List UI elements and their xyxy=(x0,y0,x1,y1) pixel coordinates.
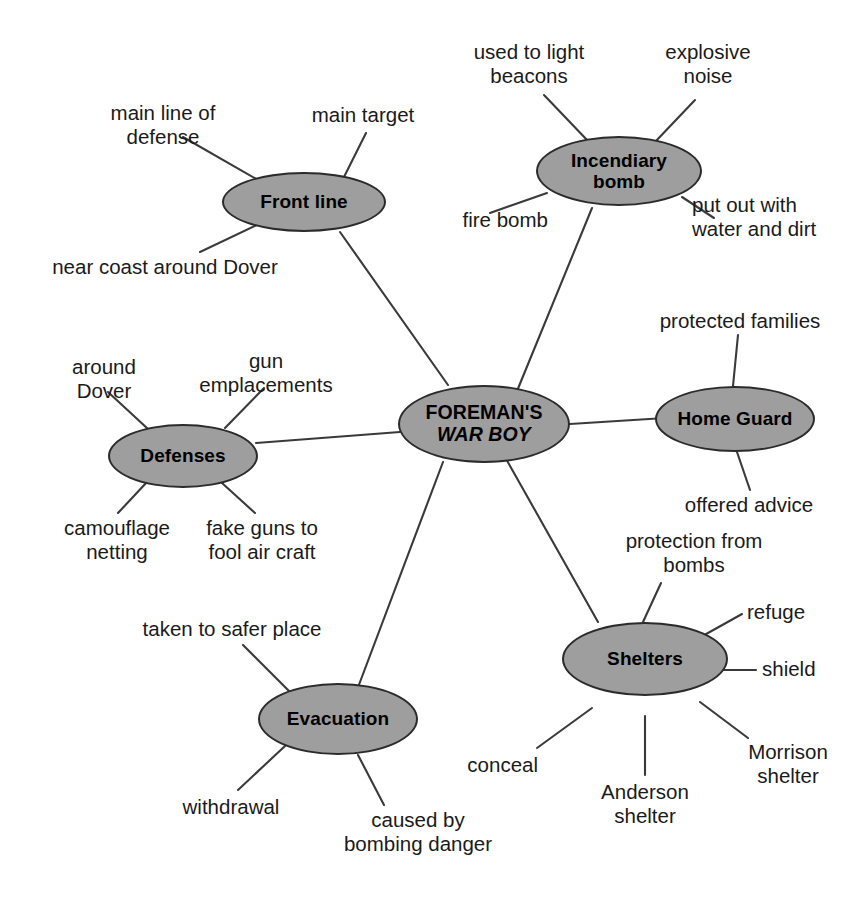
leaf-defenses-gun-emplacements: gun emplacements xyxy=(199,349,332,397)
leaf-incendiary-fire-bomb: fire bomb xyxy=(463,208,548,232)
leaf-shelters-anderson-shelter: Anderson shelter xyxy=(601,780,689,828)
node-evacuation[interactable]: Evacuation xyxy=(258,683,418,755)
edge-home-guard-leaf-1 xyxy=(733,335,738,386)
edge-center-evacuation xyxy=(357,462,443,690)
edge-center-shelters xyxy=(505,457,598,622)
edge-defenses-leaf-4 xyxy=(222,483,255,513)
node-home-guard-label: Home Guard xyxy=(671,408,798,429)
node-incendiary-bomb-label: Incendiary bomb xyxy=(565,150,673,193)
edge-evacuation-leaf-3 xyxy=(358,755,384,805)
leaf-front-line-main-target: main target xyxy=(312,103,415,127)
node-center[interactable]: FOREMAN'S WAR BOY xyxy=(398,385,570,463)
mind-map-canvas: FOREMAN'S WAR BOY Front line main line o… xyxy=(0,0,861,903)
leaf-front-line-main-line-of-defense: main line of defense xyxy=(111,101,216,149)
node-front-line[interactable]: Front line xyxy=(222,172,386,232)
node-home-guard[interactable]: Home Guard xyxy=(655,386,815,452)
edge-shelters-leaf-6 xyxy=(537,708,592,748)
node-defenses[interactable]: Defenses xyxy=(108,424,258,488)
edge-home-guard-leaf-2 xyxy=(737,452,750,490)
leaf-evacuation-caused-by-bombing-danger: caused by bombing danger xyxy=(344,808,492,856)
node-incendiary-bomb-label-line2: bomb xyxy=(593,171,645,192)
leaf-front-line-near-coast-around-dover: near coast around Dover xyxy=(52,255,278,279)
leaf-defenses-camouflage-netting: camouflage netting xyxy=(64,516,170,564)
node-incendiary-bomb-label-line1: Incendiary xyxy=(571,150,667,171)
leaf-home-guard-protected-families: protected families xyxy=(660,309,821,333)
edge-shelters-leaf-1 xyxy=(643,583,661,622)
node-incendiary-bomb[interactable]: Incendiary bomb xyxy=(536,136,702,206)
edge-evacuation-leaf-1 xyxy=(243,645,290,692)
edge-evacuation-leaf-2 xyxy=(238,746,285,790)
leaf-shelters-refuge: refuge xyxy=(747,600,805,624)
node-center-label: FOREMAN'S WAR BOY xyxy=(419,402,548,446)
leaf-shelters-shield: shield xyxy=(762,657,816,681)
leaf-incendiary-put-out-with-water-and-dirt: put out with water and dirt xyxy=(692,193,816,241)
edge-front-line-leaf-3 xyxy=(200,224,259,252)
leaf-evacuation-withdrawal: withdrawal xyxy=(183,795,280,819)
edge-incendiary-leaf-2 xyxy=(655,100,695,142)
leaf-shelters-conceal: conceal xyxy=(467,753,538,777)
node-evacuation-label: Evacuation xyxy=(281,708,395,729)
leaf-defenses-around-dover: around Dover xyxy=(72,355,136,403)
edge-center-incendiary xyxy=(517,208,592,391)
edge-center-front-line xyxy=(340,232,448,385)
leaf-shelters-protection-from-bombs: protection from bombs xyxy=(626,529,763,577)
edge-defenses-leaf-3 xyxy=(118,482,147,513)
node-shelters-label: Shelters xyxy=(601,648,689,669)
leaf-home-guard-offered-advice: offered advice xyxy=(685,493,813,517)
leaf-shelters-morrison-shelter: Morrison shelter xyxy=(748,740,828,788)
edge-center-home-guard xyxy=(570,418,665,424)
node-center-label-line1: FOREMAN'S xyxy=(425,402,542,424)
node-defenses-label: Defenses xyxy=(134,445,231,466)
edge-front-line-leaf-2 xyxy=(342,133,366,181)
node-center-label-line2: WAR BOY xyxy=(425,424,542,446)
edge-shelters-leaf-4 xyxy=(700,702,748,738)
leaf-incendiary-used-to-light-beacons: used to light beacons xyxy=(474,40,585,88)
node-shelters[interactable]: Shelters xyxy=(562,622,728,696)
leaf-evacuation-taken-to-safer-place: taken to safer place xyxy=(143,617,322,641)
edge-incendiary-leaf-1 xyxy=(544,95,588,141)
node-front-line-label: Front line xyxy=(254,191,354,212)
leaf-incendiary-explosive-noise: explosive noise xyxy=(665,40,750,88)
leaf-defenses-fake-guns-to-fool-air-craft: fake guns to fool air craft xyxy=(206,516,318,564)
edge-center-defenses xyxy=(256,432,400,443)
